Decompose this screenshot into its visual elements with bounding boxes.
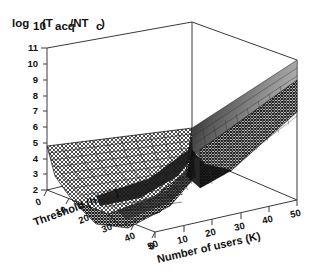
x-tick-marks — [155, 200, 297, 238]
x-axis-users: 0 10 20 30 40 50 Number of users (K) — [148, 200, 302, 265]
x-tick-label: 20 — [204, 226, 217, 239]
z-tick-label: 7 — [33, 105, 38, 116]
page-title: log — [12, 17, 29, 29]
surface-plot-figure: 11 10 9 8 7 6 5 4 3 2 0 10 20 30 — [0, 0, 324, 271]
z-tick-marks — [41, 48, 47, 190]
page-title-slash: /NT — [70, 17, 89, 29]
z-axis: 11 10 9 8 7 6 5 4 3 2 — [27, 42, 47, 195]
z-tick-label: 10 — [27, 58, 38, 69]
z-tick-label: 5 — [33, 137, 39, 148]
x-tick-label: 40 — [261, 213, 274, 226]
page-title-close: ) — [101, 17, 105, 29]
z-tick-label: 4 — [33, 153, 39, 164]
z-tick-label: 2 — [33, 184, 38, 195]
page-title-group: log 10 (T acq /NT c ) — [12, 17, 105, 32]
plot-canvas: 11 10 9 8 7 6 5 4 3 2 0 10 20 30 — [0, 0, 324, 271]
x-tick-label: 50 — [289, 207, 302, 220]
x-tick-label: 30 — [233, 220, 246, 233]
z-tick-label: 11 — [28, 42, 39, 53]
y-tick-label: 0 — [34, 196, 43, 208]
z-tick-label: 6 — [33, 121, 38, 132]
x-tick-label: 10 — [176, 233, 189, 246]
page-title-open: (T — [42, 17, 53, 29]
z-tick-label: 3 — [33, 168, 38, 179]
z-tick-label: 9 — [33, 74, 38, 85]
z-tick-label: 8 — [33, 90, 38, 101]
y-tick-label: 40 — [123, 230, 137, 244]
